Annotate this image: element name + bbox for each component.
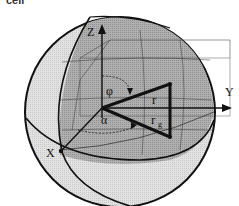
- rg-label: r: [151, 112, 156, 127]
- cutaway-region: [59, 16, 214, 164]
- r-label: r: [152, 92, 157, 107]
- alpha-label: α: [101, 113, 108, 127]
- phi-label: φ: [106, 84, 113, 98]
- x-axis-label: X: [46, 146, 55, 160]
- rg-subscript: g: [158, 120, 162, 129]
- z-axis-label: Z: [87, 25, 94, 39]
- y-arrow-icon: [222, 104, 232, 112]
- x-axis-point: [59, 149, 63, 153]
- sphere-diagram: Z Y X φ α r r g: [0, 0, 239, 206]
- y-axis-label: Y: [225, 85, 234, 99]
